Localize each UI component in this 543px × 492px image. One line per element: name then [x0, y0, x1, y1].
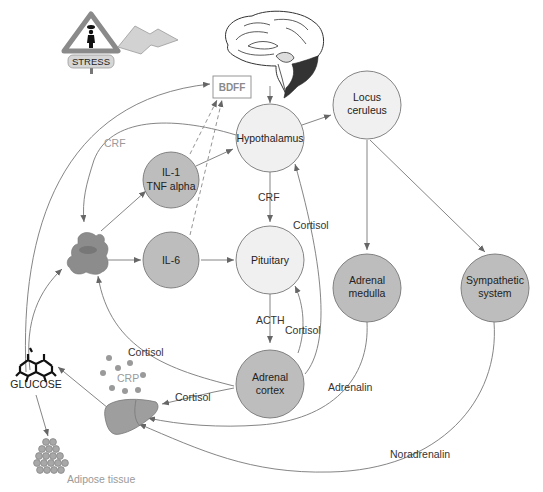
cortisol-macrophage-label: Cortisol	[128, 346, 164, 358]
il1-tnf-node[interactable]: IL-1 TNF alpha	[143, 152, 199, 208]
sympathetic-system-node[interactable]: Sympathetic system	[461, 254, 529, 322]
adrenal-cortex-line1: Adrenal	[252, 371, 288, 383]
locus-ceruleus-label-line1: Locus	[353, 91, 381, 103]
glucose-molecule-icon[interactable]	[16, 348, 56, 382]
tnf-alpha-label: TNF alpha	[146, 180, 195, 192]
pituitary-node[interactable]: Pituitary	[236, 226, 304, 294]
il6-node[interactable]: IL-6	[143, 232, 199, 288]
noradrenalin-label: Noradrenalin	[390, 448, 450, 460]
stress-response-diagram: STRESS CRF CRF ACTH Cortisol Cortisol C	[0, 0, 543, 492]
cortisol-pituitary-label: Cortisol	[285, 324, 321, 336]
adrenal-medulla-node[interactable]: Adrenal medulla	[333, 254, 401, 322]
crf-label: CRF	[258, 191, 280, 203]
hypothalamus-label: Hypothalamus	[236, 132, 303, 144]
bdff-label: BDFF	[219, 82, 246, 93]
stress-sign-icon: STRESS	[64, 14, 118, 74]
locus-ceruleus-label-line2: ceruleus	[347, 104, 387, 116]
adrenalin-label: Adrenalin	[328, 381, 373, 393]
adrenal-medulla-line2: medulla	[349, 287, 386, 299]
hypothalamus-node[interactable]: Hypothalamus	[236, 104, 304, 172]
crp-label: CRP	[117, 372, 139, 384]
cortisol-hypothalamus-label: Cortisol	[293, 219, 329, 231]
il1-label: IL-1	[162, 166, 180, 178]
acth-label: ACTH	[256, 314, 285, 326]
pituitary-label: Pituitary	[251, 254, 290, 266]
adipose-cells-icon	[34, 439, 69, 474]
crf-loop-label: CRF	[104, 137, 126, 149]
lightning-bolt-icon	[118, 26, 178, 54]
glucose-label: GLUCOSE	[10, 378, 61, 390]
adrenal-cortex-line2: cortex	[256, 384, 285, 396]
stress-label: STRESS	[72, 56, 110, 67]
adrenal-medulla-line1: Adrenal	[349, 274, 385, 286]
cortisol-liver-label: Cortisol	[175, 391, 211, 403]
sympathetic-line1: Sympathetic	[466, 274, 524, 286]
locus-ceruleus-node[interactable]: Locus ceruleus	[333, 71, 401, 139]
sympathetic-line2: system	[478, 287, 512, 299]
adipose-tissue-label: Adipose tissue	[67, 473, 135, 485]
adrenal-cortex-node[interactable]: Adrenal cortex	[236, 350, 304, 418]
immune-cell-icon[interactable]	[67, 233, 108, 275]
bdff-box[interactable]: BDFF	[213, 76, 251, 98]
il6-label: IL-6	[162, 254, 180, 266]
